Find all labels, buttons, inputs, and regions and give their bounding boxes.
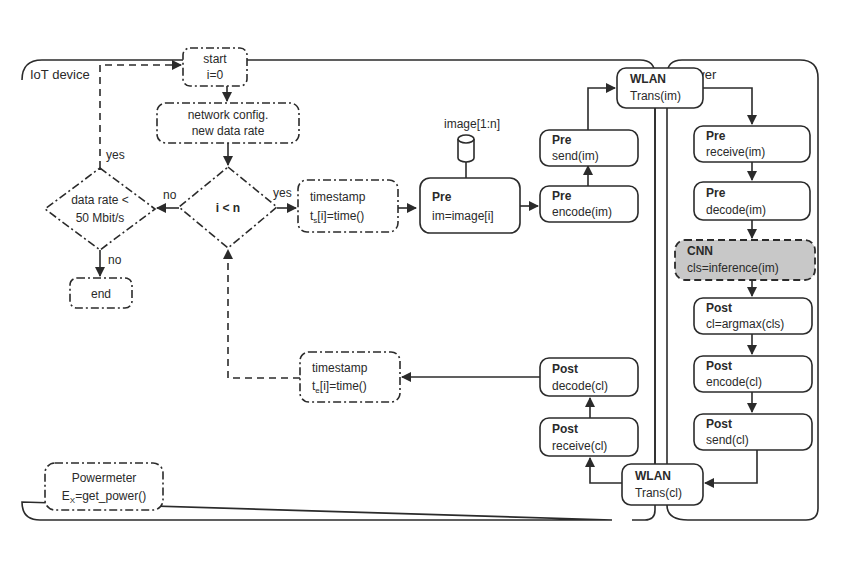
svg-text:ts[i]=time(): ts[i]=time() [310, 209, 364, 225]
svg-text:decode(im): decode(im) [706, 203, 766, 217]
pre-load-image-node[interactable]: Pre im=image[i] [420, 178, 520, 233]
svg-text:Pre: Pre [552, 189, 572, 203]
svg-text:CNN: CNN [687, 244, 713, 258]
pre-send-node[interactable]: Pre send(im) [540, 130, 638, 166]
panel-channel [655, 100, 667, 465]
loop-yes-label: yes [273, 186, 292, 200]
arrow-wlan-receive-cl [590, 458, 622, 483]
svg-text:EX=get_power(): EX=get_power() [62, 489, 146, 505]
arrow-wlan-receive [703, 88, 752, 124]
image-database-icon: image[1:n] [444, 117, 500, 178]
svg-text:timestamp: timestamp [310, 190, 366, 204]
end-node[interactable]: end [70, 278, 132, 308]
loop-condition-diamond[interactable]: i < n [179, 167, 277, 248]
arrow-send-wlan [588, 88, 615, 130]
post-decode-node[interactable]: Post decode(cl) [540, 358, 638, 396]
rate-no-label: no [108, 253, 122, 267]
arrow-timestamp-loop [228, 250, 300, 378]
post-send-node[interactable]: Post send(cl) [694, 414, 812, 450]
network-config-node[interactable]: network config. new data rate [157, 103, 299, 143]
post-argmax-node[interactable]: Post cl=argmax(cls) [694, 298, 812, 334]
svg-text:cl=argmax(cls): cl=argmax(cls) [706, 317, 784, 331]
rate-condition-diamond[interactable]: data rate < 50 Mbit/s [45, 168, 155, 250]
svg-text:encode(im): encode(im) [552, 205, 612, 219]
svg-text:te[i]=time(): te[i]=time() [312, 379, 367, 395]
svg-text:send(im): send(im) [552, 149, 599, 163]
svg-text:new data rate: new data rate [192, 124, 265, 138]
cnn-inference-node[interactable]: CNN cls=inference(im) [675, 240, 815, 280]
svg-text:Trans(cl): Trans(cl) [635, 486, 682, 500]
wlan-transmit-class-node[interactable]: WLAN Trans(cl) [622, 464, 703, 505]
start-node[interactable]: start i=0 [183, 48, 247, 86]
svg-text:encode(cl): encode(cl) [706, 375, 762, 389]
svg-text:i < n: i < n [216, 201, 240, 215]
svg-text:start: start [203, 52, 227, 66]
svg-text:Pre: Pre [432, 190, 452, 204]
svg-text:image[1:n]: image[1:n] [444, 117, 500, 131]
svg-text:cls=inference(im): cls=inference(im) [687, 261, 779, 275]
svg-text:send(cl): send(cl) [706, 433, 749, 447]
powermeter-node[interactable]: Powermeter EX=get_power() [45, 463, 163, 510]
svg-text:timestamp: timestamp [312, 361, 368, 375]
loop-no-label: no [163, 188, 177, 202]
svg-text:Post: Post [552, 422, 578, 436]
post-receive-node[interactable]: Post receive(cl) [540, 418, 638, 456]
pre-decode-node[interactable]: Pre decode(im) [694, 182, 810, 220]
post-encode-node[interactable]: Post encode(cl) [694, 356, 812, 392]
svg-text:Post: Post [552, 362, 578, 376]
svg-text:WLAN: WLAN [635, 469, 671, 483]
wlan-transmit-image-node[interactable]: WLAN Trans(im) [617, 68, 703, 108]
arrow-send-wlan-cl [705, 450, 757, 483]
svg-text:50 Mbit/s: 50 Mbit/s [76, 211, 125, 225]
svg-text:WLAN: WLAN [630, 72, 666, 86]
flowchart-canvas: IoT device Server start i=0 network conf… [0, 0, 852, 561]
svg-text:Powermeter: Powermeter [72, 471, 137, 485]
svg-text:Trans(im): Trans(im) [630, 89, 681, 103]
timestamp-start-node[interactable]: timestamp ts[i]=time() [298, 180, 398, 232]
svg-text:im=image[i]: im=image[i] [432, 209, 494, 223]
rate-yes-label: yes [106, 148, 125, 162]
iot-device-label: IoT device [30, 67, 90, 82]
pre-receive-node[interactable]: Pre receive(im) [694, 126, 810, 162]
svg-text:Pre: Pre [706, 186, 726, 200]
timestamp-end-node[interactable]: timestamp te[i]=time() [300, 352, 400, 402]
svg-text:Post: Post [706, 301, 732, 315]
svg-text:Post: Post [706, 359, 732, 373]
svg-text:Pre: Pre [706, 129, 726, 143]
svg-text:receive(cl): receive(cl) [552, 439, 607, 453]
svg-text:data rate <: data rate < [71, 193, 129, 207]
svg-text:i=0: i=0 [207, 68, 224, 82]
svg-text:Post: Post [706, 417, 732, 431]
svg-text:Pre: Pre [552, 133, 572, 147]
svg-text:receive(im): receive(im) [706, 145, 765, 159]
svg-text:end: end [91, 287, 111, 301]
pre-encode-node[interactable]: Pre encode(im) [540, 186, 638, 222]
svg-text:network config.: network config. [188, 108, 269, 122]
svg-text:decode(cl): decode(cl) [552, 379, 608, 393]
